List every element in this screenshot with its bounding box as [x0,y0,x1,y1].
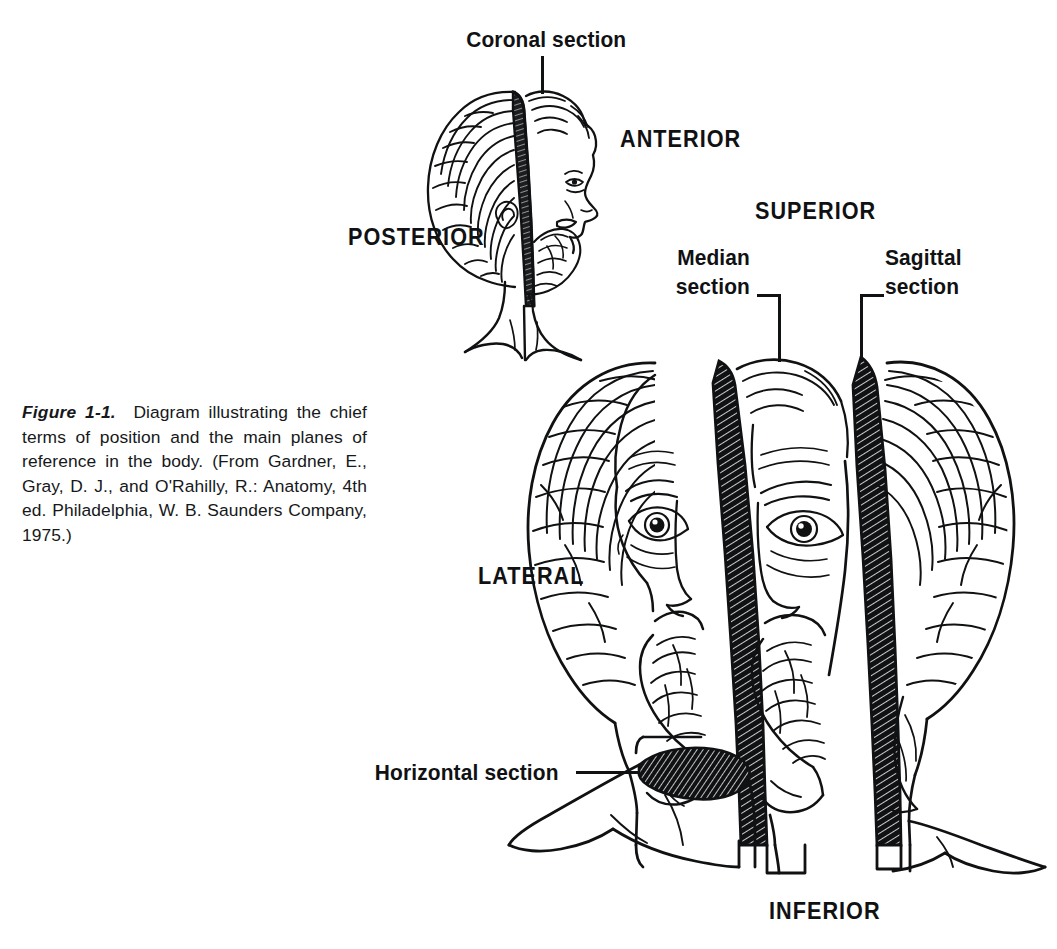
horizontal-section-label: Horizontal section [375,758,559,787]
figure-caption: Figure 1-1.Diagram illustrating the chie… [22,400,367,548]
figure-page: Coronal section ANTERIOR POSTERIOR [0,0,1057,949]
posterior-label: POSTERIOR [348,224,485,251]
coronal-section-leader-line [541,56,544,94]
anterior-label: ANTERIOR [620,126,741,153]
sagittal-section-label-line1: Sagittal [885,245,962,270]
inferior-label: INFERIOR [769,898,881,925]
frontal-head-illustration [505,345,1050,885]
coronal-plane-band [513,92,534,306]
sagittal-section-label: Sagittal section [885,243,1009,301]
lateral-label: LATERAL [478,563,585,590]
profile-head-illustration [395,70,625,360]
median-section-label-line2: section [676,274,750,299]
figure-number: Figure 1-1. [22,402,133,422]
sagittal-section-label-line2: section [885,274,959,299]
median-section-label: Median section [636,243,750,301]
median-section-leader-vertical [778,294,781,362]
median-section-label-line1: Median [677,245,750,270]
horizontal-section-leader-line [576,771,638,774]
sagittal-plane-band [853,357,901,845]
shoulders-and-horizontal-plane [509,737,1045,873]
figure-caption-text: Diagram illustrating the chief terms of … [22,402,367,545]
superior-label: SUPERIOR [755,198,876,225]
head-slab-right [877,362,1014,845]
coronal-section-label: Coronal section [466,25,626,54]
sagittal-section-leader-vertical [860,294,863,358]
sagittal-section-leader-horizontal [860,294,884,297]
